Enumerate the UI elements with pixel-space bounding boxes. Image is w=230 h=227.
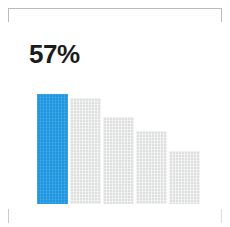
bar-5[interactable] [169,151,200,204]
frame-top-edge [8,8,222,9]
frame-top-right-corner [221,8,222,22]
stat-card: 57% [0,0,230,227]
bar-4[interactable] [136,131,167,204]
percent-value: 57% [29,39,80,69]
frame-bottom-right-tick [221,209,222,223]
bar-2[interactable] [70,98,101,204]
frame-top-left-corner [8,8,9,22]
bar-chart [37,90,201,204]
frame-bottom-left-tick [8,209,9,223]
bar-3[interactable] [103,117,134,204]
bar-1[interactable] [37,94,68,204]
